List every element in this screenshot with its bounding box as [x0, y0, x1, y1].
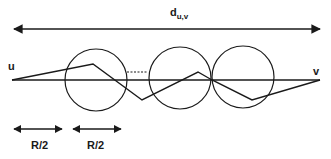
range-circle-3 — [212, 46, 274, 108]
distance-label-subscript: u,v — [177, 12, 189, 21]
range-circle-2 — [149, 47, 211, 109]
distance-label-base: d — [170, 6, 177, 18]
node-v-label: v — [313, 65, 319, 77]
distance-label: du,v — [170, 6, 188, 18]
r-half-label-left: R/2 — [31, 139, 48, 151]
node-u-label: u — [8, 60, 15, 72]
communication-range-circles — [65, 46, 274, 111]
r-half-label-right: R/2 — [87, 139, 104, 151]
multi-hop-distance-diagram — [0, 0, 331, 159]
